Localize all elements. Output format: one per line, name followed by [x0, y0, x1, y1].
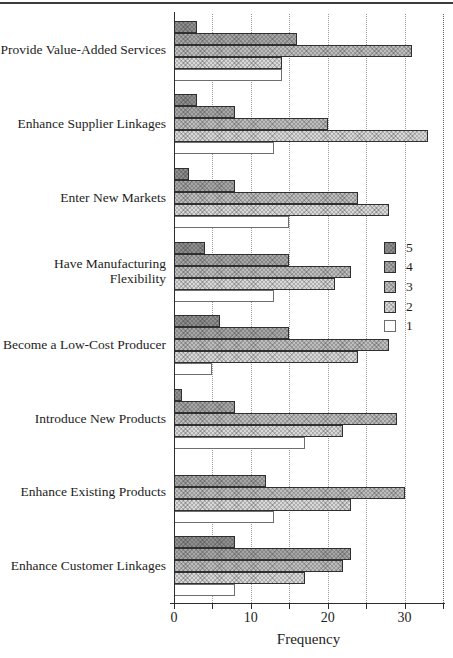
category-label: Enhance Supplier Linkages — [0, 88, 166, 162]
bar-rating-2 — [174, 278, 335, 290]
bar-rating-3 — [174, 487, 405, 499]
category-label: Provide Value-Added Services — [0, 14, 166, 88]
legend-swatch-4 — [384, 261, 396, 273]
bar-rating-3 — [174, 339, 389, 351]
legend-swatch-5 — [384, 242, 396, 254]
frequency-bar-chart-figure: Provide Value-Added ServicesEnhance Supp… — [0, 0, 453, 658]
category-label: Enhance Existing Products — [0, 456, 166, 530]
x-tick-label: 0 — [171, 610, 178, 626]
x-tick-label: 20 — [321, 610, 335, 626]
bar-rating-3 — [174, 192, 358, 204]
bar-rating-2 — [174, 130, 428, 142]
y-axis-line — [174, 12, 175, 603]
bar-rating-4 — [174, 548, 351, 560]
bar-group — [174, 456, 443, 530]
gridline-35 — [443, 14, 444, 603]
x-tick-10 — [251, 604, 252, 609]
bar-rating-1 — [174, 437, 305, 449]
bar-rating-3 — [174, 560, 343, 572]
bar-rating-1 — [174, 142, 274, 154]
category-label: Introduce New Products — [0, 382, 166, 456]
bar-rating-2 — [174, 204, 389, 216]
category-label: Have Manufacturing Flexibility — [0, 235, 166, 309]
bar-rating-1 — [174, 363, 212, 375]
bar-rating-3 — [174, 45, 412, 57]
legend-label: 3 — [406, 279, 413, 295]
legend-item-4: 4 — [384, 258, 413, 278]
bar-group — [174, 161, 443, 235]
legend-label: 4 — [406, 259, 413, 275]
bar-rating-5 — [174, 21, 197, 33]
bar-rating-2 — [174, 572, 305, 584]
bar-rating-1 — [174, 584, 235, 596]
bar-rating-5 — [174, 315, 220, 327]
x-tick-15 — [289, 604, 290, 609]
bar-rating-5 — [174, 168, 189, 180]
x-tick-25 — [366, 604, 367, 609]
x-tick-35 — [443, 604, 444, 609]
category-label: Enter New Markets — [0, 161, 166, 235]
legend: 54321 — [384, 238, 413, 336]
bar-rating-4 — [174, 401, 235, 413]
x-tick-label: 30 — [398, 610, 412, 626]
x-tick-20 — [328, 604, 329, 609]
bar-rating-1 — [174, 290, 274, 302]
legend-swatch-2 — [384, 301, 396, 313]
bar-rating-2 — [174, 57, 282, 69]
page-top-rule — [0, 2, 453, 4]
bar-rating-3 — [174, 266, 351, 278]
bar-rating-2 — [174, 351, 358, 363]
legend-label: 1 — [406, 318, 413, 334]
bar-group — [174, 529, 443, 603]
bar-rating-5 — [174, 536, 235, 548]
bar-rating-5 — [174, 389, 182, 401]
bar-rating-4 — [174, 327, 289, 339]
bar-rating-4 — [174, 33, 297, 45]
legend-label: 5 — [406, 240, 413, 256]
bar-group — [174, 14, 443, 88]
bar-group — [174, 88, 443, 162]
legend-item-1: 1 — [384, 316, 413, 336]
legend-item-2: 2 — [384, 297, 413, 317]
x-tick-30 — [405, 604, 406, 609]
bar-rating-4 — [174, 254, 289, 266]
bar-rating-1 — [174, 216, 289, 228]
bar-rating-3 — [174, 413, 397, 425]
legend-item-5: 5 — [384, 238, 413, 258]
x-tick-label: 10 — [244, 610, 258, 626]
bar-rating-5 — [174, 242, 205, 254]
x-axis-title: Frequency — [174, 631, 443, 648]
bar-rating-1 — [174, 69, 282, 81]
bar-rating-4 — [174, 475, 266, 487]
category-label: Enhance Customer Linkages — [0, 529, 166, 603]
legend-swatch-3 — [384, 281, 396, 293]
bar-group — [174, 382, 443, 456]
legend-swatch-1 — [384, 320, 396, 332]
x-tick-0 — [174, 604, 175, 609]
bar-rating-4 — [174, 106, 235, 118]
bar-rating-2 — [174, 425, 343, 437]
bar-rating-3 — [174, 118, 328, 130]
bar-rating-1 — [174, 511, 274, 523]
bar-rating-2 — [174, 499, 351, 511]
category-label: Become a Low-Cost Producer — [0, 309, 166, 383]
bar-rating-4 — [174, 180, 235, 192]
legend-label: 2 — [406, 299, 413, 315]
x-tick-5 — [212, 604, 213, 609]
legend-item-3: 3 — [384, 277, 413, 297]
bar-rating-5 — [174, 94, 197, 106]
